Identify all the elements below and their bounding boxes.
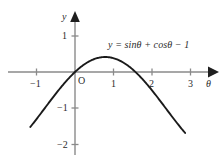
function-curve <box>30 57 185 133</box>
y-tick-label-1: 1 <box>62 31 67 41</box>
x-tick-label-neg1: −1 <box>30 79 41 89</box>
x-tick-label-2: 2 <box>149 79 154 89</box>
curve-equation-label: y = sinθ + cosθ − 1 <box>108 40 189 50</box>
figure-plot: y θ O −1 1 2 3 1 −1 −2 y = sinθ + cosθ −… <box>0 0 224 162</box>
x-axis-arrowhead <box>208 67 219 78</box>
y-axis-label: y <box>62 12 66 22</box>
x-tick-label-3: 3 <box>188 79 193 89</box>
origin-label: O <box>78 76 85 86</box>
y-tick-label-neg2: −2 <box>57 140 68 150</box>
x-axis-label: θ <box>206 79 211 89</box>
y-axis-arrowhead <box>70 11 80 22</box>
y-tick-label-neg1: −1 <box>57 103 68 113</box>
x-tick-label-1: 1 <box>111 79 116 89</box>
